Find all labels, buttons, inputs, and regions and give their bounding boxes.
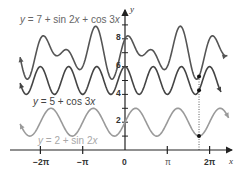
y-tick-label: 6 [116, 60, 121, 70]
label-top-curve: y = 7 + sin 2x + cos 3x [20, 14, 120, 25]
curve-bottom [20, 108, 229, 136]
label-text: + cos 3 [79, 14, 114, 25]
y-tick-label: 8 [116, 32, 121, 42]
label-text: = 5 + cos 3 [38, 96, 90, 107]
y-tick-label: 4 [116, 88, 121, 98]
x-tick-label: 2π [204, 157, 215, 167]
label-bottom-curve: y = 2 + sin 2x [38, 135, 97, 146]
label-var: x [115, 14, 120, 25]
x-tick-label: −2π [33, 157, 49, 167]
x-tick-label: 0 [122, 157, 127, 167]
curves [19, 26, 229, 136]
label-var: x [90, 96, 95, 107]
x-tick-label: π [165, 157, 171, 167]
chart-canvas [0, 0, 248, 175]
label-middle-curve: y = 5 + cos 3x [33, 96, 95, 107]
arrow-icon [19, 57, 24, 62]
label-var: x [92, 135, 97, 146]
data-point [197, 88, 201, 92]
x-tick-label: −π [77, 157, 88, 167]
data-point [197, 74, 201, 78]
y-tick-label: 2 [116, 115, 121, 125]
label-text: = 7 + sin 2 [25, 14, 74, 25]
y-axis-label: y [130, 4, 134, 14]
arrow-icon [19, 83, 24, 89]
label-text: = 2 + sin 2 [43, 135, 92, 146]
data-point [197, 134, 201, 138]
x-axis-label: x [229, 156, 233, 166]
